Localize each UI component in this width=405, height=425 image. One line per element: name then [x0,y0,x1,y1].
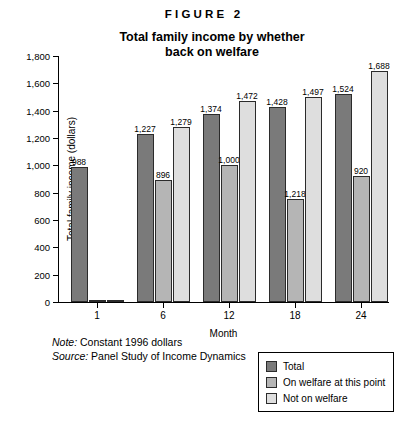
x-axis-tick-label: 1 [94,310,100,321]
bar-value-label: 1,279 [170,117,191,127]
y-axis-tick [53,275,58,276]
chart-legend: TotalOn welfare at this pointNot on welf… [258,352,394,412]
legend-item-label: Not on welfare [283,393,347,404]
bar-value-label: 896 [156,170,170,180]
bar-value-label: 1,000 [218,155,239,165]
bar-notonwelfare: 1,688 [371,71,388,302]
bar-onwelfare: 1,218 [287,199,304,302]
bar-value-label: 988 [72,157,86,167]
x-axis-tick [97,303,98,308]
bar-onwelfare: 896 [155,180,172,302]
x-axis-tick-label: 6 [160,310,166,321]
y-axis-line [58,56,59,303]
y-axis-tick-label: 1,400 [16,105,50,116]
y-axis-tick-label: 800 [16,187,50,198]
bar-group: 1,4281,2181,497 [269,56,322,302]
figure-container: FIGURE 2 Total family income by whether … [0,0,405,425]
x-axis-tick [229,303,230,308]
bar-onwelfare [89,300,106,302]
bar-onwelfare: 1,000 [221,165,238,302]
bar-total: 1,428 [269,107,286,302]
note-line: Note: Constant 1996 dollars [52,336,246,350]
legend-swatch-icon [266,361,277,372]
bar-value-label: 1,688 [368,61,389,71]
bar-total: 1,374 [203,114,220,302]
bar-value-label: 920 [354,166,368,176]
chart-title-line-1: Total family income by whether [52,30,372,45]
x-axis-tick [295,303,296,308]
x-axis-line [58,302,389,303]
y-axis-tick-label: 400 [16,242,50,253]
y-axis-tick [53,138,58,139]
legend-swatch-icon [266,377,277,388]
y-axis-tick [53,220,58,221]
figure-number-label: FIGURE 2 [0,8,405,20]
legend-item-label: Total [283,361,304,372]
legend-item-label: On welfare at this point [283,377,385,388]
y-axis-tick [53,56,58,57]
bar-notonwelfare [107,300,124,302]
y-axis-tick [53,111,58,112]
bar-group: 1,5249201,688 [335,56,388,302]
bar-notonwelfare: 1,279 [173,127,190,302]
legend-item: Not on welfare [266,390,387,406]
y-axis-tick-label: 1,000 [16,160,50,171]
source-line: Source: Panel Study of Income Dynamics [52,350,246,364]
bar-value-label: 1,428 [266,97,287,107]
bar-total: 988 [71,167,88,302]
bar-notonwelfare: 1,472 [239,101,256,302]
y-axis-tick [53,247,58,248]
legend-swatch-icon [266,393,277,404]
y-axis-tick-label: 600 [16,215,50,226]
bar-value-label: 1,472 [236,91,257,101]
bar-group: 1,2278961,279 [137,56,190,302]
note-text: Constant 1996 dollars [77,336,182,348]
x-axis-tick [361,303,362,308]
y-axis-tick-label: 1,800 [16,51,50,62]
bar-onwelfare: 920 [353,176,370,302]
y-axis-tick-label: 1,600 [16,78,50,89]
y-axis-tick [53,193,58,194]
bar-value-label: 1,218 [284,189,305,199]
note-lead: Note: [52,336,77,348]
y-axis-tick [53,165,58,166]
y-axis-tick-label: 200 [16,269,50,280]
legend-item: Total [266,358,387,374]
y-axis-tick [53,302,58,303]
y-axis-tick-label: 0 [16,297,50,308]
x-axis-tick-label: 24 [355,310,366,321]
bar-value-label: 1,227 [134,124,155,134]
bar-notonwelfare: 1,497 [305,97,322,302]
bar-value-label: 1,524 [332,84,353,94]
plot-area: Total family income (dollars) 0200400600… [58,56,388,302]
figure-notes: Note: Constant 1996 dollars Source: Pane… [52,336,246,363]
bar-total: 1,227 [137,134,154,302]
source-text: Panel Study of Income Dynamics [88,350,246,362]
source-lead: Source: [52,350,88,362]
x-axis-tick [163,303,164,308]
y-axis-tick [53,83,58,84]
y-axis-tick-label: 1,200 [16,133,50,144]
bar-value-label: 1,497 [302,87,323,97]
x-axis-tick-label: 18 [289,310,300,321]
bar-group: 988 [71,56,124,302]
x-axis-tick-label: 12 [223,310,234,321]
bar-group: 1,3741,0001,472 [203,56,256,302]
bar-total: 1,524 [335,94,352,302]
legend-item: On welfare at this point [266,374,387,390]
bar-value-label: 1,374 [200,104,221,114]
